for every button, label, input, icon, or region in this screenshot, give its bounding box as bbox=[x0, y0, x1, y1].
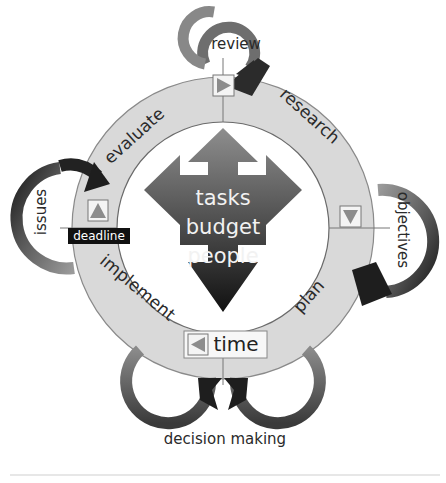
loop-label-objectives: objectives bbox=[394, 192, 412, 268]
time-label: time bbox=[213, 332, 258, 356]
loop-label-issues: issues bbox=[32, 189, 50, 236]
cycle-diagram: tasks budget people research plan implem… bbox=[0, 0, 446, 483]
center-text-tasks: tasks bbox=[195, 186, 250, 210]
deadline-label: deadline bbox=[73, 229, 125, 243]
center-text-budget: budget bbox=[186, 215, 260, 239]
center-text-people: people bbox=[187, 244, 258, 268]
loop-label-review: review bbox=[211, 35, 261, 53]
objectives-marker bbox=[340, 206, 361, 227]
time-marker: time bbox=[184, 331, 267, 358]
review-marker bbox=[213, 75, 234, 96]
issues-marker bbox=[88, 200, 108, 221]
deadline-badge: deadline bbox=[68, 228, 130, 244]
loop-label-decision-making: decision making bbox=[164, 430, 286, 448]
